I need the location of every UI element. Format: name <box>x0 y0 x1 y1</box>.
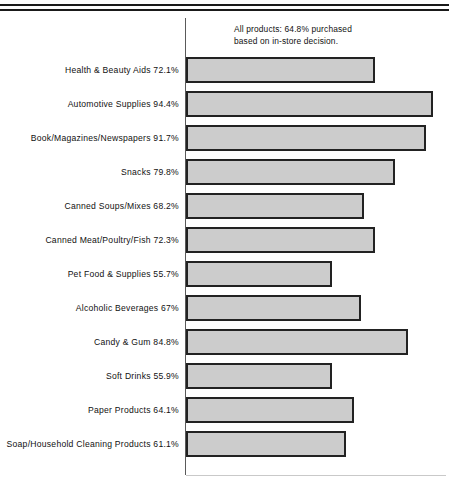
chart-annotation: All products: 64.8% purchased based on i… <box>234 24 444 47</box>
bar-row-label: Automotive Supplies 94.4% <box>68 91 179 117</box>
bar <box>186 363 332 389</box>
bar-row-label: Alcoholic Beverages 67% <box>76 295 179 321</box>
bar-row: Pet Food & Supplies 55.7% <box>0 261 449 287</box>
bar <box>186 295 361 321</box>
bar <box>186 125 426 151</box>
bar-row-label: Book/Magazines/Newspapers 91.7% <box>31 125 179 151</box>
header-rule-lower <box>0 9 449 11</box>
bar-row: Paper Products 64.1% <box>0 397 449 423</box>
bar <box>186 227 375 253</box>
bar <box>186 193 364 219</box>
bar-row: Soap/Household Cleaning Products 61.1% <box>0 431 449 457</box>
bar <box>186 397 354 423</box>
bar-row: Canned Soups/Mixes 68.2% <box>0 193 449 219</box>
plot-area-bottom-border <box>186 475 446 476</box>
annotation-line-2: based on in-store decision. <box>234 36 444 48</box>
bar-row-label: Canned Soups/Mixes 68.2% <box>65 193 179 219</box>
bar-row: Soft Drinks 55.9% <box>0 363 449 389</box>
bar-row: Automotive Supplies 94.4% <box>0 91 449 117</box>
bar-row-label: Pet Food & Supplies 55.7% <box>68 261 179 287</box>
annotation-line-1: All products: 64.8% purchased <box>234 24 444 36</box>
bar-row: Snacks 79.8% <box>0 159 449 185</box>
bar <box>186 91 433 117</box>
bar-row-label: Soap/Household Cleaning Products 61.1% <box>7 431 179 457</box>
bar <box>186 261 332 287</box>
bar-row: Candy & Gum 84.8% <box>0 329 449 355</box>
header-double-rule <box>0 0 449 14</box>
bar-row-label: Snacks 79.8% <box>121 159 179 185</box>
bar-row-label: Soft Drinks 55.9% <box>106 363 179 389</box>
bar <box>186 159 395 185</box>
bar-row: Book/Magazines/Newspapers 91.7% <box>0 125 449 151</box>
bar <box>186 329 408 355</box>
bar-row-label: Canned Meat/Poultry/Fish 72.3% <box>45 227 179 253</box>
bar <box>186 57 375 83</box>
header-rule-upper <box>0 4 449 6</box>
bar-chart: All products: 64.8% purchased based on i… <box>0 14 449 489</box>
bar <box>186 431 346 457</box>
bar-row-label: Health & Beauty Aids 72.1% <box>65 57 179 83</box>
bar-row: Canned Meat/Poultry/Fish 72.3% <box>0 227 449 253</box>
bar-row-label: Candy & Gum 84.8% <box>94 329 179 355</box>
bar-row: Health & Beauty Aids 72.1% <box>0 57 449 83</box>
bar-row: Alcoholic Beverages 67% <box>0 295 449 321</box>
bar-row-label: Paper Products 64.1% <box>88 397 179 423</box>
